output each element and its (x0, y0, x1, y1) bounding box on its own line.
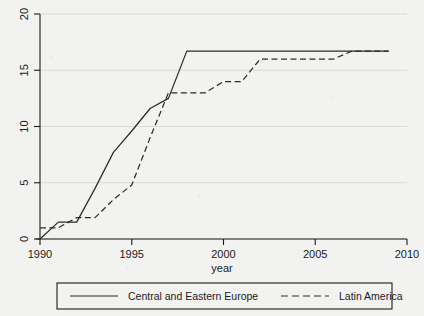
y-tick-label-10: 10 (18, 120, 30, 132)
y-tick-label-0: 0 (18, 236, 30, 242)
x-tick-label-2005: 2005 (303, 248, 327, 260)
x-tick-label-1995: 1995 (120, 248, 144, 260)
y-tick-label-20: 20 (18, 8, 30, 20)
x-tick-label-2010: 2010 (395, 248, 419, 260)
x-tick-label-2000: 2000 (211, 248, 235, 260)
y-tick-label-5: 5 (18, 180, 30, 186)
y-tick-label-15: 15 (18, 64, 30, 76)
legend-label-central-and-eastern-europe: Central and Eastern Europe (128, 290, 258, 302)
chart-container: 05101520 19901995200020052010 year Centr… (0, 0, 424, 316)
line-chart: 05101520 19901995200020052010 year Centr… (0, 0, 424, 316)
x-tick-label-1990: 1990 (28, 248, 52, 260)
x-axis-label: year (211, 262, 233, 274)
legend-label-latin-america: Latin America (339, 290, 403, 302)
